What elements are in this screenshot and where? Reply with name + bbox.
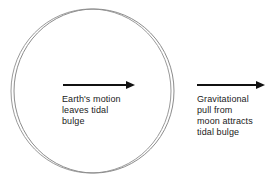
earth-circle-outline [14, 9, 174, 173]
earth-motion-caption: Earth's motion leaves tidal bulge [62, 94, 138, 127]
tidal-bulge-figure: Earth's motion leaves tidal bulge Gravit… [0, 0, 277, 181]
moon-pull-arrow [197, 81, 265, 89]
moon-pull-arrow-head [256, 81, 265, 89]
tidal-bulge-outline [11, 9, 171, 173]
earth-diagram-canvas [0, 0, 277, 181]
moon-pull-caption: Gravitational pull from moon attracts ti… [197, 94, 275, 138]
earth-motion-arrow [63, 81, 135, 89]
earth-motion-arrow-head [126, 81, 135, 89]
